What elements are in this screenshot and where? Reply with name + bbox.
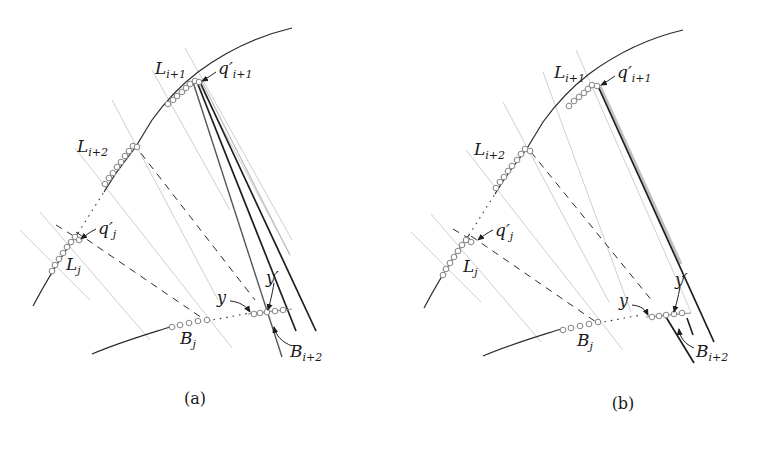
label-L-j-b: Lj <box>462 256 478 279</box>
point-cluster-L-i1-b <box>566 82 600 109</box>
figure-canvas: Li+1 q′i+1 Li+2 q′j Lj Bj y y′ Bi+2 (a) <box>0 0 766 451</box>
label-L-i2-b: Li+2 <box>473 139 505 162</box>
inner-curve-a <box>92 327 170 354</box>
point-cluster-y-a <box>248 307 292 317</box>
label-q-i1-a: q′i+1 <box>218 58 252 81</box>
label-B-i2-b: Bi+2 <box>695 341 728 364</box>
label-B-j-a: Bj <box>179 328 197 351</box>
label-B-j-b: Bj <box>576 330 594 353</box>
label-L-i1-b: Li+1 <box>553 62 585 85</box>
inner-curve-b <box>483 329 561 356</box>
point-cluster-y-b <box>646 310 691 320</box>
label-y-a: y <box>216 288 227 307</box>
label-L-i2-a: Li+2 <box>76 136 108 159</box>
label-q-j-a: q′j <box>98 218 117 241</box>
caption-a: (a) <box>184 389 206 408</box>
label-B-i2-a: Bi+2 <box>289 341 322 364</box>
label-y-prime-a: y′ <box>265 268 279 287</box>
thick-lines-b <box>597 84 714 363</box>
panel-b: Li+1 q′i+1 Li+2 q′j Lj Bj y y′ Bi+2 (b) <box>411 30 728 413</box>
light-lines-a <box>20 48 292 348</box>
label-y-prime-b: y′ <box>674 270 688 289</box>
label-y-b: y <box>618 291 629 310</box>
caption-b: (b) <box>612 394 635 413</box>
label-q-i1-b: q′i+1 <box>617 62 651 85</box>
arrows-a <box>81 72 292 346</box>
label-q-j-b: q′j <box>495 220 514 243</box>
label-L-i1-a: Li+1 <box>154 58 186 81</box>
panel-a: Li+1 q′i+1 Li+2 q′j Lj Bj y y′ Bi+2 (a) <box>20 28 322 408</box>
